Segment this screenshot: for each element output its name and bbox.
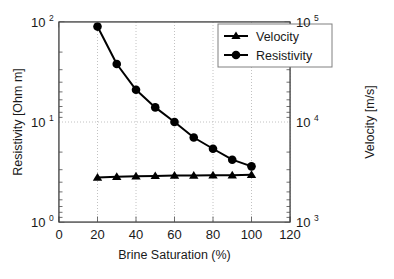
left-tick-1e2: 10 2 — [31, 13, 54, 30]
left-tick-base-2: 10 — [31, 215, 45, 230]
y-axis-title-left: Resistivity [Ohm m] — [11, 68, 25, 176]
legend-resistivity-label: Resistivity — [256, 49, 313, 63]
y-axis-title-right: Velocity [m/s] — [363, 85, 377, 159]
x-tick-6: 120 — [279, 227, 301, 242]
left-tick-exp-2: 0 — [49, 213, 54, 223]
right-tick-base-1: 10 — [296, 115, 310, 130]
left-tick-1e0: 10 0 — [31, 213, 54, 230]
chart-figure: Velocity Resistivity 10 2 10 1 10 0 — [0, 0, 394, 279]
legend[interactable]: Velocity Resistivity — [218, 24, 332, 67]
right-tick-1e4: 10 4 — [296, 113, 319, 130]
x-tick-3: 60 — [167, 227, 181, 242]
x-axis-tick-labels: 0 20 40 60 80 100 120 — [55, 227, 300, 242]
left-tick-base-0: 10 — [31, 15, 45, 30]
right-tick-exp-1: 4 — [314, 113, 319, 123]
x-tick-4: 80 — [206, 227, 220, 242]
chart-canvas: Velocity Resistivity 10 2 10 1 10 0 — [0, 0, 394, 279]
x-tick-2: 40 — [129, 227, 143, 242]
x-axis-title: Brine Saturation (%) — [118, 248, 231, 262]
left-axis-tick-labels: 10 2 10 1 10 0 — [31, 13, 54, 230]
left-tick-exp-0: 2 — [49, 13, 54, 23]
left-tick-base-1: 10 — [31, 115, 45, 130]
legend-velocity-label: Velocity — [256, 30, 300, 44]
x-tick-0: 0 — [55, 227, 62, 242]
x-tick-1: 20 — [90, 227, 104, 242]
right-tick-exp-2: 3 — [314, 213, 319, 223]
right-tick-base-0: 10 — [296, 15, 310, 30]
x-tick-5: 100 — [241, 227, 263, 242]
left-tick-1e1: 10 1 — [31, 113, 54, 130]
right-tick-exp-0: 5 — [314, 13, 319, 23]
circle-icon — [232, 51, 241, 60]
left-tick-exp-1: 1 — [49, 113, 54, 123]
